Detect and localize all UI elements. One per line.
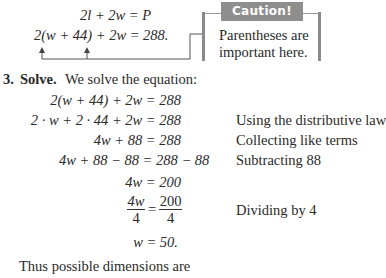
solution-note-3: Collecting like terms [236,132,358,148]
fraction-left-numerator: 4w [127,193,145,209]
caution-top-rule-right [303,13,318,14]
solution-note-2: Using the distributive law [236,112,386,128]
caution-left-bar [202,12,205,61]
solution-note-6: Dividing by 4 [236,202,317,218]
solution-line-2: 2 · w + 2 · 44 + 2w = 288 [31,112,181,128]
solution-line-5: 4w = 200 [125,174,181,190]
conclusion-text: Thus possible dimensions are [19,258,190,274]
solution-line-3: 4w + 88 = 288 [94,132,181,148]
solution-line-1: 2(w + 44) + 2w = 288 [50,92,181,108]
caution-title: Caution! [221,2,303,21]
fraction-right-denominator: 4 [159,209,182,226]
solution-line-7: w = 50. [133,234,178,250]
solution-line-4: 4w + 88 − 88 = 288 − 88 [59,152,209,168]
caution-top-rule-left [205,13,221,14]
caution-right-bar [318,12,321,61]
fraction-left: 4w 4 [127,193,145,226]
step-text: We solve the equation: [65,71,197,87]
caution-line-1: Parentheses are [219,27,309,43]
step-label: Solve. [20,71,57,87]
parentheses-arrow-connector [0,0,372,80]
fraction-right-numerator: 200 [159,193,182,209]
fraction-left-denominator: 4 [127,209,145,226]
caution-line-2: important here. [219,44,308,60]
solution-note-4: Subtracting 88 [236,152,321,168]
step-number: 3. [3,71,14,87]
fraction-right: 200 4 [159,193,182,226]
fraction-equals: = [148,201,156,217]
